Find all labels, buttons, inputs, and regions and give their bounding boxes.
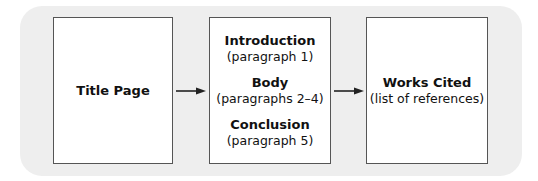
works-cited-box: Works Cited (list of references) (366, 17, 488, 164)
introduction-section: Introduction (paragraph 1) (225, 33, 316, 64)
arrow-right-icon (334, 87, 364, 95)
introduction-label: Introduction (225, 33, 316, 49)
essay-body-box: Introduction (paragraph 1) Body (paragra… (209, 17, 331, 164)
conclusion-label: Conclusion (230, 117, 310, 133)
works-cited-label: Works Cited (383, 75, 471, 91)
title-page-label: Title Page (76, 83, 149, 99)
title-page-box: Title Page (53, 17, 173, 164)
body-label: Body (252, 75, 289, 91)
introduction-sub: (paragraph 1) (227, 49, 314, 64)
body-sub: (paragraphs 2–4) (216, 91, 323, 106)
arrow-right-icon (176, 87, 206, 95)
conclusion-sub: (paragraph 5) (227, 133, 314, 148)
works-cited-sub: (list of references) (370, 91, 484, 106)
body-section: Body (paragraphs 2–4) (216, 75, 323, 106)
conclusion-section: Conclusion (paragraph 5) (227, 117, 314, 148)
